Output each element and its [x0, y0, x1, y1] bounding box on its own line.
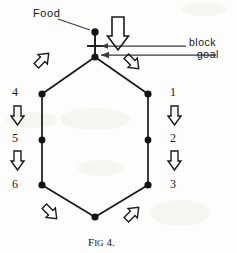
block-leader-arrowhead — [101, 43, 108, 49]
hollow-down-arrow-right-upper — [168, 106, 181, 125]
hexagon-path — [42, 57, 148, 217]
food-node-group — [87, 28, 103, 57]
vertex-upper-left-dot — [38, 90, 45, 97]
hollow-down-arrow-top — [108, 17, 129, 50]
node-label-4: 4 — [12, 86, 18, 98]
figure-caption: FIG 4. — [88, 232, 115, 250]
block-label: block — [189, 37, 216, 48]
midpoint-right-dot — [145, 137, 152, 144]
vertex-lower-right-dot — [144, 181, 151, 188]
figure-caption-smallcaps: IG — [94, 238, 104, 248]
figure-caption-suffix: 4. — [104, 236, 115, 248]
midpoint-left-dot — [39, 137, 46, 144]
node-label-6: 6 — [12, 178, 18, 190]
hollow-down-arrow-left-upper — [11, 106, 24, 125]
vertex-upper-right-dot — [144, 90, 151, 97]
food-label: Food — [33, 8, 60, 19]
hollow-down-arrow-left-lower — [11, 151, 24, 170]
node-label-3: 3 — [170, 178, 176, 190]
node-label-5: 5 — [12, 132, 18, 144]
node-label-2: 2 — [170, 132, 176, 144]
goal-leader-arrowhead — [101, 52, 109, 58]
vertex-lower-left-dot — [38, 181, 45, 188]
vertex-bottom-dot — [91, 213, 98, 220]
hexagon-vertex-dots — [38, 53, 151, 220]
goal-label: goal — [197, 49, 219, 60]
hollow-arrow-up-left-top-left — [32, 49, 54, 71]
food-leader-line — [58, 19, 90, 30]
node-label-1: 1 — [170, 86, 176, 98]
hollow-arrow-down-right-bottom-left — [40, 202, 62, 224]
hollow-down-arrow-right-lower — [168, 151, 181, 170]
food-dot — [91, 28, 98, 35]
hollow-arrow-up-left-bottom-right — [122, 203, 144, 225]
figure-4-diagram: Food block goal 4 5 6 1 2 3 FIG 4. — [0, 0, 237, 253]
